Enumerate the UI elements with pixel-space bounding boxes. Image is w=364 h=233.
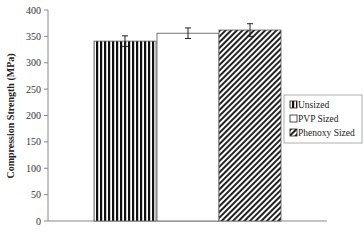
y-tick-label: 0 <box>36 216 41 227</box>
y-axis-ticks: 050100150200250300350400 <box>26 5 48 227</box>
legend-swatch-unsized <box>290 101 297 108</box>
legend-label-unsized: Unsized <box>298 100 329 110</box>
bar-unsized <box>94 41 156 221</box>
y-axis-title: Compression Strength (MPa) <box>5 53 17 178</box>
y-tick-label: 400 <box>26 5 41 16</box>
bar-chart: Compression Strength (MPa) 0501001502002… <box>0 0 364 233</box>
y-tick-label: 250 <box>26 84 41 95</box>
y-tick-label: 200 <box>26 110 41 121</box>
y-tick-label: 350 <box>26 31 41 42</box>
legend-swatch-pvp <box>290 115 297 122</box>
y-tick-label: 100 <box>26 163 41 174</box>
y-tick-label: 300 <box>26 57 41 68</box>
y-tick-label: 150 <box>26 136 41 147</box>
bar-phenoxy-sized <box>219 30 281 221</box>
bars <box>94 24 281 221</box>
legend: Unsized PVP Sized Phenoxy Sized <box>284 95 362 143</box>
legend-label-phenoxy: Phenoxy Sized <box>298 128 355 138</box>
y-tick-label: 50 <box>31 189 41 200</box>
legend-swatch-phenoxy <box>290 129 297 136</box>
legend-label-pvp: PVP Sized <box>298 114 339 124</box>
bar-pvp-sized <box>157 33 219 221</box>
